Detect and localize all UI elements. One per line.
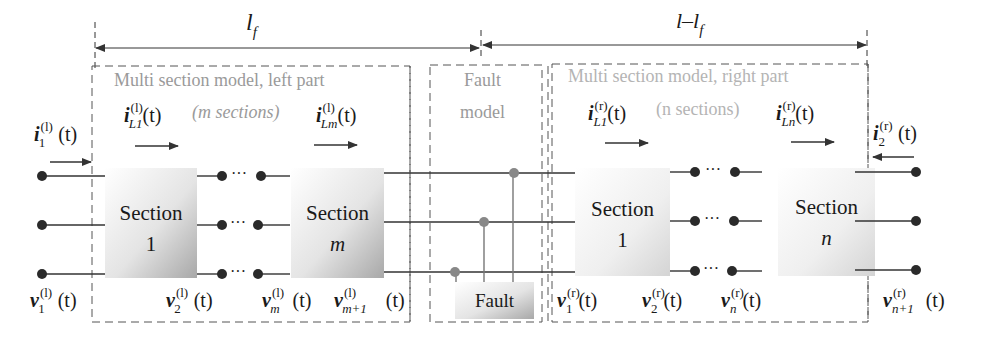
ellipsis-right-1: ··· [705, 162, 721, 178]
section-left-m: Sectionm [291, 201, 384, 257]
current-i2-right: i(r)2 (t) [873, 123, 917, 143]
section-right-n: Sectionn [778, 195, 875, 251]
current-iLn-right: i(r)Ln(t) [776, 103, 814, 123]
section-left-1: Section1 [105, 201, 197, 257]
fault-model-title-2: model [460, 103, 505, 121]
right-part-title: Multi section model, right part [568, 67, 788, 85]
dim-label-left: lf [246, 10, 257, 34]
voltage-v2-left: v(l)2 (t) [166, 290, 213, 310]
section-right-1: Section1 [575, 197, 670, 253]
current-iLm-left: i(l)Lm(t) [316, 105, 356, 125]
left-part-title: Multi section model, left part [114, 71, 324, 89]
voltage-v2-right: v(r)2(t) [642, 290, 682, 310]
current-iL1-right: i(r)L1(t) [588, 103, 626, 123]
voltage-v1-left: v(l)1 (t) [30, 290, 77, 310]
right-part-count: (n sections) [656, 100, 739, 118]
ellipsis-right-3: ··· [703, 261, 719, 277]
fault-connections [456, 173, 513, 282]
fault-model-title-1: Fault [464, 71, 501, 89]
voltage-v1-right: v(r)1(t) [557, 290, 597, 310]
dim-label-right: l–lf [676, 10, 703, 32]
left-part-count: (m sections) [192, 103, 279, 121]
voltage-vm1-left: v(l)m+1 (t) [334, 290, 405, 310]
ellipsis-left-3: ··· [230, 264, 246, 280]
current-arrows [50, 142, 914, 162]
dimension-lines [95, 22, 867, 70]
ellipsis-left-1: ··· [231, 166, 247, 182]
voltage-vm-left: v(l)m (t) [262, 290, 311, 310]
ellipsis-left-2: ··· [230, 215, 246, 231]
current-iL1-left: i(l)L1(t) [124, 105, 161, 125]
voltage-vn1-right: v(r)n+1(t) [883, 290, 945, 310]
fault-block-label: Fault [455, 282, 534, 319]
ellipsis-right-2: ··· [704, 211, 720, 227]
current-i1-left: i(l)1 (t) [34, 124, 77, 144]
voltage-vn-right: v(r)n(t) [721, 290, 761, 310]
